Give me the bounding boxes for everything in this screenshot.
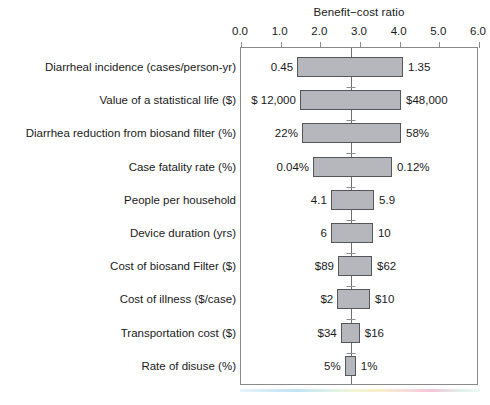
tornado-row: Rate of disuse (%)5%1% — [0, 350, 490, 382]
bar-low-value-9: 5% — [324, 360, 341, 372]
bar-low-value-1: $ 12,000 — [251, 94, 296, 106]
tornado-bar-8 — [341, 323, 360, 343]
row-label-3: Case fatality rate (%) — [129, 161, 236, 173]
tornado-bar-9 — [345, 356, 356, 376]
tornado-row: Diarrheal incidence (cases/person-yr)0.4… — [0, 51, 490, 83]
x-axis-tick — [400, 42, 401, 48]
bar-low-value-0: 0.45 — [271, 61, 293, 73]
tornado-row: Device duration (yrs)610 — [0, 217, 490, 249]
scan-color-fringe — [240, 389, 480, 392]
row-label-5: Device duration (yrs) — [130, 227, 236, 239]
x-tick-label-1-0: 1.0 — [272, 25, 288, 37]
bar-high-value-8: $16 — [365, 327, 384, 339]
bar-high-value-5: 10 — [378, 227, 391, 239]
x-tick-label-4-0: 4.0 — [391, 25, 407, 37]
bar-high-value-4: 5.9 — [379, 194, 395, 206]
tornado-bar-3 — [313, 157, 392, 177]
tornado-row: People per household4.15.9 — [0, 184, 490, 216]
x-axis-tick — [439, 42, 440, 48]
row-label-8: Transportation cost ($) — [121, 327, 236, 339]
x-tick-label-6-0: 6.0 — [470, 25, 486, 37]
bar-high-value-1: $48,000 — [406, 94, 448, 106]
bar-low-value-3: 0.04% — [276, 161, 309, 173]
row-label-1: Value of a statistical life ($) — [99, 94, 236, 106]
bar-high-value-7: $10 — [375, 293, 394, 305]
tornado-row: Transportation cost ($)$34$16 — [0, 317, 490, 349]
row-label-4: People per household — [124, 194, 236, 206]
chart-title: Benefit−cost ratio — [240, 6, 478, 18]
x-axis-tick — [320, 42, 321, 48]
x-tick-label-0-0: 0.0 — [232, 25, 248, 37]
tornado-chart-figure: Benefit−cost ratio 0.01.02.03.04.05.06.0… — [0, 0, 490, 405]
row-label-6: Cost of biosand Filter ($) — [110, 260, 236, 272]
bar-high-value-2: 58% — [406, 127, 429, 139]
tornado-bar-7 — [337, 289, 370, 309]
bar-low-value-8: $34 — [318, 327, 337, 339]
tornado-bar-5 — [331, 223, 373, 243]
x-axis-tick — [281, 42, 282, 48]
x-tick-label-2-0: 2.0 — [311, 25, 327, 37]
tornado-row: Cost of biosand Filter ($)$89$62 — [0, 250, 490, 282]
bar-low-value-6: $89 — [315, 260, 334, 272]
tornado-bar-1 — [300, 90, 401, 110]
bar-high-value-0: 1.35 — [408, 61, 430, 73]
bar-high-value-9: 1% — [361, 360, 378, 372]
x-axis-tick-labels: 0.01.02.03.04.05.06.0 — [0, 25, 490, 39]
bar-low-value-2: 22% — [275, 127, 298, 139]
row-label-2: Diarrhea reduction from biosand filter (… — [26, 127, 236, 139]
tornado-row: Cost of illness ($/case)$2$10 — [0, 283, 490, 315]
tornado-row: Value of a statistical life ($)$ 12,000$… — [0, 84, 490, 116]
x-tick-label-3-0: 3.0 — [351, 25, 367, 37]
bar-high-value-3: 0.12% — [397, 161, 430, 173]
row-label-9: Rate of disuse (%) — [141, 360, 236, 372]
bar-low-value-5: 6 — [320, 227, 326, 239]
x-axis-tick — [241, 42, 242, 48]
x-tick-label-5-0: 5.0 — [430, 25, 446, 37]
x-axis-tick — [479, 42, 480, 48]
row-label-0: Diarrheal incidence (cases/person-yr) — [45, 61, 236, 73]
tornado-row: Case fatality rate (%)0.04%0.12% — [0, 151, 490, 183]
bar-low-value-7: $2 — [320, 293, 333, 305]
tornado-bar-2 — [302, 123, 401, 143]
x-axis-tick — [360, 42, 361, 48]
tornado-bar-6 — [338, 256, 372, 276]
tornado-bar-4 — [331, 190, 374, 210]
tornado-bar-0 — [297, 57, 403, 77]
bar-low-value-4: 4.1 — [311, 194, 327, 206]
tornado-row: Diarrhea reduction from biosand filter (… — [0, 117, 490, 149]
bar-high-value-6: $62 — [377, 260, 396, 272]
row-label-7: Cost of illness ($/case) — [120, 293, 236, 305]
